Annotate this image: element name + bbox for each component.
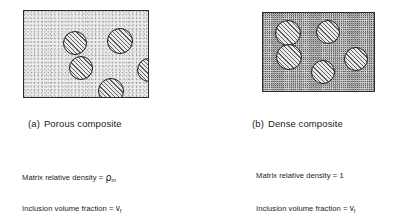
inclusion-circle <box>137 58 149 82</box>
dense-inclusion-fraction-label: Inclusion volume fraction = <box>256 204 350 213</box>
v-subscript: f <box>354 208 356 214</box>
inclusion-circle <box>311 60 335 84</box>
porous-inclusion-fraction-annotation: Inclusion volume fraction = vf <box>22 204 121 214</box>
porous-panel-caption: (a)Porous composite <box>28 118 122 129</box>
inclusion-circle <box>69 56 93 80</box>
dense-panel-caption: (b)Dense composite <box>252 118 343 129</box>
inclusion-circle <box>98 78 124 98</box>
porous-caption-text: Porous composite <box>44 118 122 129</box>
rho-symbol: ρ <box>105 172 111 183</box>
inclusion-circle <box>316 20 340 44</box>
inclusion-circle <box>276 44 302 70</box>
dense-composite-panel <box>262 12 375 92</box>
rho-subscript: m <box>112 177 117 183</box>
porous-matrix-density-annotation: Matrix relative density = ρm <box>22 171 116 183</box>
composite-microstructure-figure: (a)Porous composite (b)Dense composite M… <box>0 0 416 223</box>
v-subscript: f <box>120 208 122 214</box>
porous-composite-panel <box>23 10 149 98</box>
porous-inclusion-fraction-label: Inclusion volume fraction = <box>22 204 116 213</box>
dense-caption-label: (b) <box>252 118 264 129</box>
dense-caption-text: Dense composite <box>268 118 343 129</box>
inclusion-circle <box>63 31 87 55</box>
dense-matrix-density-label: Matrix relative density = 1 <box>256 171 344 180</box>
dense-matrix-density-annotation: Matrix relative density = 1 <box>256 171 344 180</box>
dense-inclusion-fraction-annotation: Inclusion volume fraction = vf <box>256 204 355 214</box>
porous-caption-label: (a) <box>28 118 40 129</box>
inclusion-circle <box>107 28 133 54</box>
porous-matrix-density-label: Matrix relative density = <box>22 173 105 182</box>
inclusion-circle <box>275 20 301 46</box>
inclusion-circle <box>344 47 368 71</box>
